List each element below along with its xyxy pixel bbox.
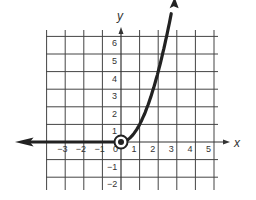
up-arrow-icon: [170, 0, 179, 8]
y-tick-label: −1: [107, 162, 117, 172]
x-tick-label: −2: [76, 144, 86, 154]
graph: −3−2−1012345−2−1123456 x y: [0, 0, 256, 200]
grid: [46, 30, 218, 190]
x-tick-label: 4: [187, 144, 192, 154]
y-tick-label: 4: [112, 74, 117, 84]
y-tick-label: 3: [112, 91, 117, 101]
x-tick-label: −1: [94, 144, 104, 154]
y-tick-label: 6: [112, 38, 117, 48]
y-tick-label: −2: [107, 179, 117, 189]
x-tick-label: 3: [169, 144, 174, 154]
tick-labels: −3−2−1012345−2−1123456: [57, 38, 211, 189]
function-curve: [30, 14, 171, 142]
x-tick-label: 5: [206, 144, 211, 154]
x-tick-label: 2: [150, 144, 155, 154]
axes: [46, 27, 230, 190]
origin-point-dot-icon: [118, 139, 124, 145]
x-axis-arrow-icon: [223, 140, 230, 145]
curve-arrows: [15, 0, 179, 149]
y-tick-label: 1: [112, 126, 117, 136]
y-axis-arrow-icon: [119, 27, 124, 34]
x-tick-label: 1: [132, 144, 137, 154]
y-tick-label: 5: [112, 56, 117, 66]
y-tick-label: 2: [112, 109, 117, 119]
x-tick-label: −3: [57, 144, 67, 154]
x-axis-label: x: [233, 136, 241, 150]
y-axis-label: y: [116, 9, 124, 23]
